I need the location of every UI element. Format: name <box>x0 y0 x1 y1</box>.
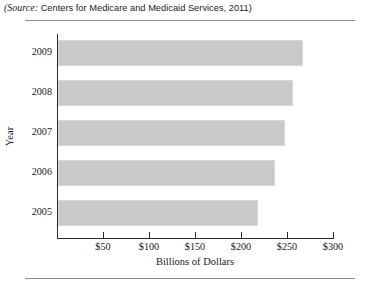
y-tick-label-2006: 2006 <box>6 166 52 177</box>
x-tick-50 <box>103 232 104 239</box>
source-text: Centers for Medicare and Medicaid Servic… <box>38 3 252 13</box>
bar-chart-figure: Year 20092008200720062005 $50$100$150$20… <box>0 26 378 276</box>
divider-top <box>25 20 355 21</box>
bar-2007 <box>58 120 285 146</box>
x-tick-300 <box>333 232 334 239</box>
x-tick-200 <box>241 232 242 239</box>
x-tick-label: $250 <box>262 241 312 252</box>
y-tick-label-2008: 2008 <box>6 86 52 97</box>
y-tick-label-2009: 2009 <box>6 46 52 57</box>
x-tick-250 <box>287 232 288 239</box>
x-tick-100 <box>149 232 150 239</box>
x-tick-label: $50 <box>78 241 128 252</box>
x-tick-label: $300 <box>308 241 358 252</box>
x-tick-label: $100 <box>124 241 174 252</box>
y-tick-label-2005: 2005 <box>6 206 52 217</box>
bar-2009 <box>58 40 303 66</box>
x-tick-label: $200 <box>216 241 266 252</box>
source-note: (Source: Centers for Medicare and Medica… <box>4 1 252 15</box>
bar-2008 <box>58 80 293 106</box>
divider-bottom <box>25 278 355 279</box>
y-tick-label-2007: 2007 <box>6 126 52 137</box>
x-axis-title: Billions of Dollars <box>57 256 333 267</box>
bar-2005 <box>58 200 258 226</box>
x-tick-label: $150 <box>170 241 220 252</box>
x-tick-0 <box>57 232 58 239</box>
bar-2006 <box>58 160 275 186</box>
source-label: (Source: <box>4 2 38 13</box>
x-tick-150 <box>195 232 196 239</box>
